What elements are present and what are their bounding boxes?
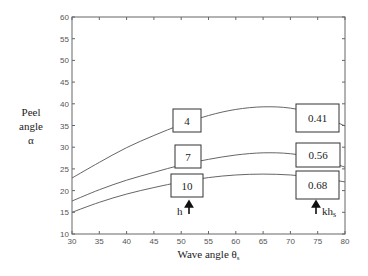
y-tick-label: 25 — [60, 165, 69, 174]
y-tick-label: 35 — [60, 122, 69, 131]
y-axis-title-line: Peel — [22, 106, 41, 118]
x-tick-label: 45 — [149, 237, 158, 246]
x-axis-title: Wave angle θs — [177, 248, 239, 262]
arrow-up-icon — [313, 201, 320, 214]
x-tick-label: 75 — [313, 237, 322, 246]
y-axis-title-line: angle — [19, 120, 43, 132]
x-tick-label: 40 — [122, 237, 131, 246]
h-label: h — [177, 205, 183, 217]
x-tick-label: 55 — [204, 237, 213, 246]
y-tick-label: 60 — [60, 13, 69, 22]
y-tick-label: 15 — [60, 208, 69, 217]
peel-angle-chart: 3035404550556065707580101520253035404550… — [0, 0, 368, 276]
h-value-label: 7 — [185, 151, 191, 163]
x-tick-label: 60 — [231, 237, 240, 246]
arrow-up-icon — [186, 201, 193, 214]
khs-value-label: 0.41 — [308, 112, 327, 124]
y-tick-label: 30 — [60, 143, 69, 152]
x-tick-label: 70 — [286, 237, 295, 246]
x-tick-label: 50 — [177, 237, 186, 246]
annotation-boxes: 47100.410.560.68hkhs — [171, 104, 340, 219]
x-tick-label: 80 — [341, 237, 350, 246]
x-tick-label: 65 — [259, 237, 268, 246]
y-tick-label: 20 — [60, 187, 69, 196]
y-tick-label: 10 — [60, 230, 69, 239]
y-tick-label: 40 — [60, 100, 69, 109]
x-tick-label: 35 — [95, 237, 104, 246]
h-value-label: 10 — [182, 180, 194, 192]
khs-label: khs — [322, 205, 336, 219]
y-tick-label: 45 — [60, 78, 69, 87]
khs-value-label: 0.56 — [308, 149, 328, 161]
h-value-label: 4 — [184, 115, 190, 127]
y-axis-title-line: α — [28, 134, 34, 146]
y-tick-label: 55 — [60, 35, 69, 44]
khs-value-label: 0.68 — [308, 179, 328, 191]
y-tick-label: 50 — [60, 56, 69, 65]
